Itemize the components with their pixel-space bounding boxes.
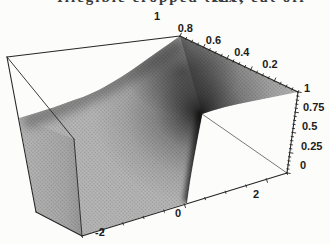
- z-axis-tick-label: 0.75: [303, 101, 324, 113]
- z-axis-minor-tick: [292, 124, 295, 125]
- z-axis-tick-label: 0.5: [302, 120, 317, 132]
- z-axis-minor-tick: [290, 140, 293, 141]
- z-axis-major-tick: [289, 153, 294, 154]
- depth-axis-tick-label: 0.6: [206, 34, 221, 46]
- x-axis-tick-label: 2: [253, 188, 259, 200]
- box-edge-top-left: [7, 36, 180, 57]
- z-axis-minor-tick: [287, 165, 290, 166]
- z-axis-minor-tick: [295, 108, 298, 109]
- x-axis-tick-label: 0: [175, 207, 181, 219]
- x-axis-tick-label: -2: [95, 226, 105, 238]
- z-axis-tick-label: 1: [304, 82, 310, 94]
- depth-axis-tick-label: 1: [154, 10, 160, 22]
- surface-right-edge-line: [202, 114, 287, 173]
- z-axis-tick-label: 0: [300, 159, 306, 171]
- z-axis-tick-label: 0.25: [301, 140, 322, 152]
- figure-canvas: Illegible cropped title, text cut off: [0, 0, 330, 244]
- z-axis-minor-tick: [296, 100, 299, 101]
- depth-axis-tick-label: 0.4: [234, 46, 250, 58]
- z-axis-major-tick: [294, 112, 299, 113]
- z-axis-minor-tick: [289, 149, 292, 150]
- surface-plot: 10.80.60.40.210.750.50.250-202: [0, 0, 330, 244]
- z-axis-minor-tick: [294, 116, 297, 117]
- z-axis-minor-tick: [288, 157, 291, 158]
- depth-axis-tick-label: 0.8: [178, 22, 193, 34]
- depth-axis-tick-label: 0.2: [262, 58, 277, 70]
